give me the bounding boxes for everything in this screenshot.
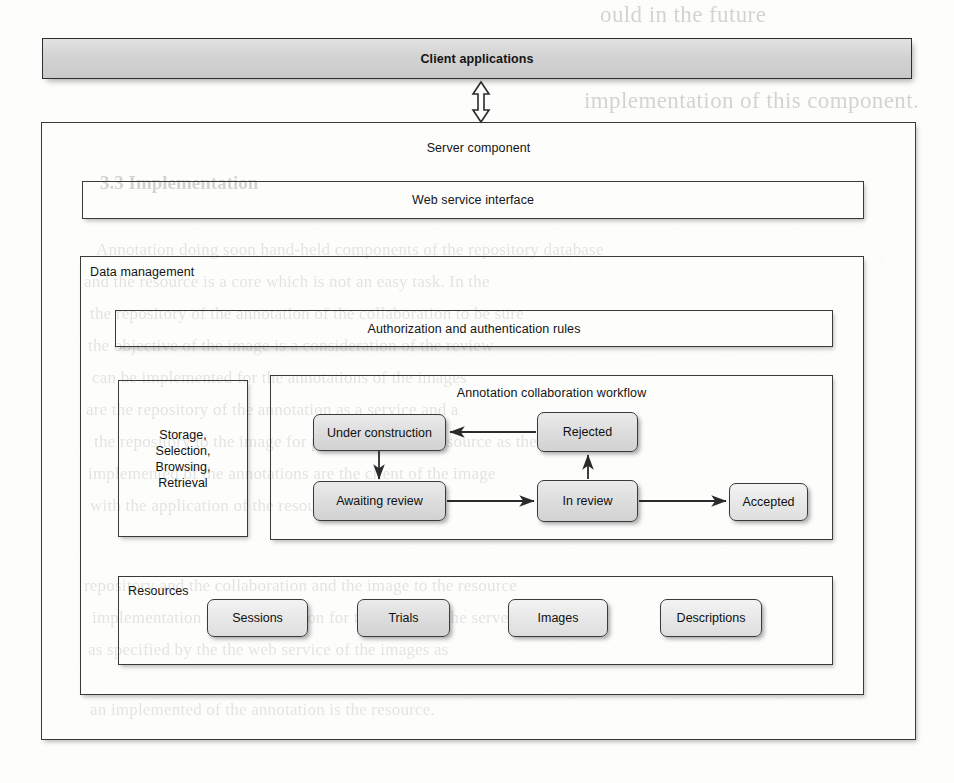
resource-item-label: Images — [538, 611, 579, 625]
annotation-workflow-label: Annotation collaboration workflow — [271, 386, 832, 400]
storage-lines: Storage, Selection, Browsing, Retrieval — [119, 381, 247, 536]
client-applications-label: Client applications — [420, 52, 533, 66]
workflow-state-rejected[interactable]: Rejected — [537, 412, 638, 452]
data-management-label: Data management — [90, 265, 194, 279]
storage-line: Browsing, — [156, 459, 211, 475]
server-component-label: Server component — [42, 141, 915, 155]
storage-line: Retrieval — [158, 475, 207, 491]
double-headed-vertical-arrow-icon — [466, 80, 496, 124]
authorization-rules-label: Authorization and authentication rules — [116, 322, 832, 336]
resource-item-trials[interactable]: Trials — [357, 599, 450, 637]
web-service-interface-box: Web service interface — [82, 181, 864, 219]
resource-item-label: Descriptions — [677, 611, 746, 625]
storage-line: Selection, — [156, 443, 211, 459]
client-applications-layer: Client applications — [42, 38, 912, 79]
authorization-rules-box: Authorization and authentication rules — [115, 310, 833, 347]
resource-item-label: Sessions — [232, 611, 283, 625]
resource-item-sessions[interactable]: Sessions — [207, 599, 308, 637]
workflow-state-label: Accepted — [742, 495, 794, 509]
web-service-interface-label: Web service interface — [83, 193, 863, 207]
workflow-state-label: In review — [562, 494, 612, 508]
scanned-page: ould in the future implementation of thi… — [0, 0, 954, 783]
workflow-state-in-review[interactable]: In review — [537, 480, 638, 522]
workflow-state-label: Under construction — [327, 426, 432, 440]
resource-item-label: Trials — [388, 611, 418, 625]
ghost-line: ould in the future — [600, 2, 766, 28]
ghost-line: implementation of this component. — [584, 88, 919, 114]
workflow-state-accepted[interactable]: Accepted — [729, 483, 808, 521]
resource-item-images[interactable]: Images — [508, 599, 608, 637]
storage-box: Storage, Selection, Browsing, Retrieval — [118, 380, 248, 537]
storage-line: Storage, — [159, 427, 206, 443]
workflow-state-under-construction[interactable]: Under construction — [313, 414, 446, 451]
workflow-state-label: Rejected — [563, 425, 612, 439]
workflow-state-label: Awaiting review — [336, 494, 423, 508]
resource-item-descriptions[interactable]: Descriptions — [660, 599, 762, 637]
resources-label: Resources — [128, 584, 189, 598]
workflow-state-awaiting-review[interactable]: Awaiting review — [313, 481, 446, 521]
